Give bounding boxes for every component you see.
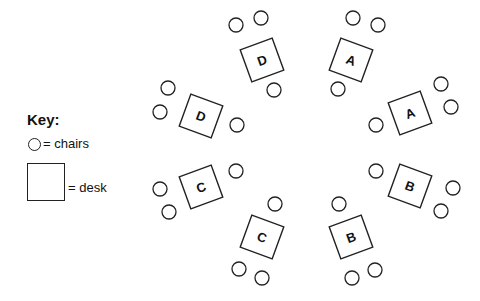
chair: [255, 271, 269, 285]
desk: B: [329, 215, 373, 259]
desk: D: [179, 94, 223, 138]
chair: [267, 83, 281, 97]
chair: [371, 18, 385, 32]
chair: [153, 182, 167, 196]
chair: [345, 271, 359, 285]
chair: [268, 197, 282, 211]
desk: A: [329, 38, 373, 82]
desk-group-c: C: [153, 164, 243, 219]
chair: [229, 164, 243, 178]
chair: [232, 262, 246, 276]
chair: [230, 118, 244, 132]
chair: [369, 164, 383, 178]
chair: [153, 105, 167, 119]
chair: [332, 197, 346, 211]
chair: [368, 263, 382, 277]
desk-group-b: B: [329, 197, 382, 285]
desk: C: [240, 215, 284, 259]
chair: [229, 18, 243, 32]
chair: [369, 118, 383, 132]
chair: [161, 81, 175, 95]
desk-group-c: C: [232, 197, 284, 285]
chair: [444, 100, 458, 114]
chair: [434, 204, 448, 218]
desk-group-d: D: [153, 81, 244, 138]
desk-group-a: A: [329, 11, 385, 96]
desk: C: [179, 165, 223, 209]
classroom-seating-diagram: DADACBCB: [0, 0, 480, 301]
desk: A: [388, 91, 432, 135]
desk: B: [388, 164, 432, 208]
chair: [446, 181, 460, 195]
chair: [346, 11, 360, 25]
desk-group-d: D: [229, 11, 284, 97]
desk-group-b: B: [369, 164, 460, 218]
chair: [254, 11, 268, 25]
chair: [434, 77, 448, 91]
desk: D: [240, 38, 284, 82]
chair: [331, 82, 345, 96]
chair: [162, 205, 176, 219]
desk-group-a: A: [369, 77, 458, 135]
